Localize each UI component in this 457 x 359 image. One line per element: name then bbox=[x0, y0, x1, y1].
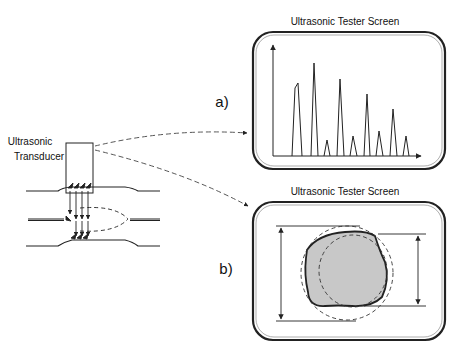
pipe-wall bbox=[26, 187, 160, 246]
ultrasonic-diagram: Ultrasonic Transducer Ultrasonic Tester … bbox=[0, 0, 457, 359]
tester-screen-a bbox=[253, 32, 445, 169]
panel-a-title: Ultrasonic Tester Screen bbox=[291, 16, 400, 27]
panel-b-label: b) bbox=[219, 260, 232, 277]
connector-arrows bbox=[95, 132, 248, 206]
transducer-assembly: Ultrasonic Transducer bbox=[8, 136, 93, 193]
transducer-label-1: Ultrasonic bbox=[8, 136, 52, 147]
measured-profile bbox=[305, 232, 387, 307]
panel-b-title: Ultrasonic Tester Screen bbox=[291, 186, 400, 197]
panel-a: Ultrasonic Tester Screen a) bbox=[215, 16, 445, 169]
transducer-label-2: Transducer bbox=[14, 151, 65, 162]
panel-b: Ultrasonic Tester Screen b) bbox=[219, 186, 445, 340]
panel-a-label: a) bbox=[215, 93, 228, 110]
